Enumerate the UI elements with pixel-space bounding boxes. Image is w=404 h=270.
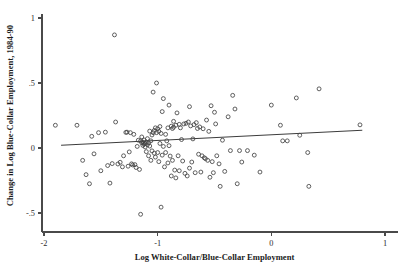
scatter-point [278,123,282,127]
scatter-point [139,212,143,216]
scatter-point [258,170,262,174]
scatter-point [163,165,167,169]
y-axis-title: Change in Log Blue-Collar Employment, 19… [5,25,15,206]
scatter-point [120,165,124,169]
scatter-point [127,150,131,154]
y-tick-label: -.5 [26,209,35,218]
scatter-point [176,154,180,158]
scatter-point [190,160,194,164]
scatter-point [211,171,215,175]
scatter-point [205,118,209,122]
scatter-plot-figure: 1.50-.5-2-101 Log White-Collar/Blue-Coll… [0,0,404,270]
scatter-point [161,144,165,148]
scatter-point [177,169,181,173]
scatter-point [235,182,239,186]
scatter-point [155,81,159,85]
scatter-point [160,110,164,114]
scatter-point [167,103,171,107]
scatter-point [161,97,165,101]
scatter-point [159,205,163,209]
x-tick-label: -1 [154,239,161,248]
scatter-point [135,144,139,148]
scatter-point [231,93,235,97]
scatter-point [99,169,103,173]
plot-canvas: 1.50-.5-2-101 Log White-Collar/Blue-Coll… [0,0,404,270]
x-tick-label: 1 [383,239,387,248]
scatter-point [294,96,298,100]
scatter-point [208,175,212,179]
scatter-point [84,173,88,177]
scatter-point [185,174,189,178]
scatter-point [151,90,155,94]
scatter-point [238,149,242,153]
scatter-point [164,132,168,136]
scatter-point [178,126,182,130]
scatter-point [170,158,174,162]
scatter-point [218,184,222,188]
scatter-point [226,115,230,119]
scatter-point [188,166,192,170]
scatter-point [113,33,117,37]
scatter-point [199,170,203,174]
scatter-point [150,149,154,153]
scatter-point [97,131,101,135]
scatter-point [210,160,214,164]
scatter-point [221,138,225,142]
scatter-point [138,168,142,172]
scatter-points [53,33,362,216]
scatter-point [228,149,232,153]
scatter-point [175,111,179,115]
scatter-point [75,123,79,127]
scatter-point [317,87,321,91]
scatter-point [214,122,218,126]
scatter-point [160,153,164,157]
fit-line [61,130,362,145]
scatter-point [169,174,173,178]
scatter-point [108,181,112,185]
scatter-point [88,182,92,186]
scatter-point [223,169,227,173]
scatter-point [157,160,161,164]
scatter-point [252,153,256,157]
scatter-point [181,159,185,163]
scatter-point [173,168,177,172]
scatter-point [215,154,219,158]
scatter-point [201,127,205,131]
scatter-point [153,155,157,159]
scatter-point [110,162,114,166]
scatter-point [90,134,94,138]
y-tick-label: 1 [31,14,35,23]
scatter-point [158,125,162,129]
scatter-point [132,132,136,136]
x-tick-label: -2 [41,239,48,248]
scatter-point [246,149,250,153]
scatter-point [306,151,310,155]
scatter-point [217,162,221,166]
scatter-point [209,104,213,108]
x-tick-label: 0 [269,239,273,248]
scatter-point [92,152,96,156]
scatter-point [207,129,211,133]
scatter-point [53,123,57,127]
axis-labels: Log White-Collar/Blue-Collar EmploymentC… [5,25,294,262]
scatter-point [240,160,244,164]
scatter-point [174,176,178,180]
scatter-point [147,154,151,158]
x-axis-title: Log White-Collar/Blue-Collar Employment [135,252,295,262]
scatter-point [188,105,192,109]
scatter-point [122,154,126,158]
scatter-point [193,171,197,175]
scatter-point [103,130,107,134]
scatter-point [81,158,85,162]
scatter-point [298,133,302,137]
scatter-point [281,139,285,143]
scatter-point [164,151,168,155]
scatter-point [358,123,362,127]
scatter-point [168,154,172,158]
scatter-point [269,103,273,107]
scatter-point [285,139,289,143]
regression-line [61,130,362,145]
scatter-point [149,158,153,162]
scatter-point [144,150,148,154]
scatter-point [167,144,171,148]
